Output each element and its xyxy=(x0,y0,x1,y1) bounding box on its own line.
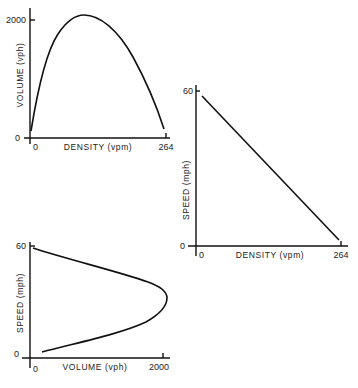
x-tick-label-max: 264 xyxy=(158,142,173,152)
y-tick-label-min: 0 xyxy=(180,241,185,251)
y-axis-label: SPEED (mph) xyxy=(181,160,191,220)
speed-density-line xyxy=(202,96,339,240)
x-axis-label: DENSITY (vpm) xyxy=(236,250,305,260)
x-tick-label-max: 2000 xyxy=(149,362,169,372)
x-axis-label: VOLUME (vph) xyxy=(63,362,128,372)
speed-volume-chart: 60 0 0 2000 VOLUME (vph) SPEED (mph) xyxy=(14,241,170,374)
volume-density-curve xyxy=(31,15,164,131)
y-tick-label-max: 2000 xyxy=(6,15,26,25)
volume-density-chart: 2000 0 0 264 DENSITY (vpm) VOLUME (vph) xyxy=(6,8,174,152)
y-axis-label: VOLUME (vph) xyxy=(15,43,25,108)
y-axis-label: SPEED (mph) xyxy=(15,273,25,333)
x-axis-label: DENSITY (vpm) xyxy=(64,142,133,152)
x-tick-label-min: 0 xyxy=(199,250,204,260)
speed-density-chart: 60 0 0 264 DENSITY (vpm) SPEED (mph) xyxy=(180,85,349,260)
speed-volume-curve xyxy=(33,248,167,352)
x-tick-label-min: 0 xyxy=(33,364,38,374)
y-tick-label-min: 0 xyxy=(15,133,20,143)
x-tick-label-max: 264 xyxy=(333,250,348,260)
y-tick-label-max: 60 xyxy=(16,241,26,251)
x-tick-label-min: 0 xyxy=(33,142,38,152)
y-tick-label-min: 0 xyxy=(14,349,19,359)
y-tick-label-max: 60 xyxy=(183,86,193,96)
fundamental-diagrams: 2000 0 0 264 DENSITY (vpm) VOLUME (vph) … xyxy=(0,0,358,388)
